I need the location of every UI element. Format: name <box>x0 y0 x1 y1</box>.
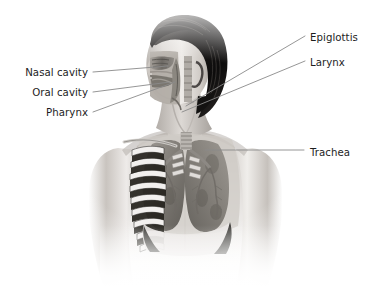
leader-line-larynx <box>182 61 305 112</box>
label-nasal-cavity[interactable]: Nasal cavity <box>25 67 88 78</box>
respiratory-system-diagram: Nasal cavity Oral cavity Pharynx Epiglot… <box>0 0 370 289</box>
leader-line-epiglottis <box>186 36 305 106</box>
leader-line-oral-cavity <box>93 82 170 92</box>
leader-lines <box>0 0 370 289</box>
label-larynx[interactable]: Larynx <box>310 57 345 68</box>
label-epiglottis[interactable]: Epiglottis <box>310 32 358 43</box>
label-pharynx[interactable]: Pharynx <box>46 107 88 118</box>
label-trachea[interactable]: Trachea <box>310 147 350 158</box>
label-oral-cavity[interactable]: Oral cavity <box>32 87 88 98</box>
leader-line-nasal-cavity <box>93 66 168 72</box>
